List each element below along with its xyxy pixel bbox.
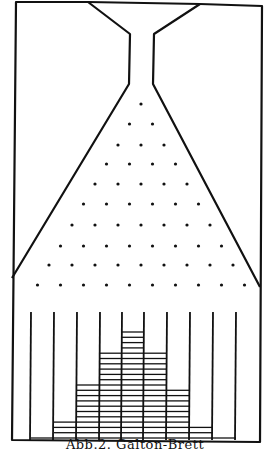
peg bbox=[59, 244, 62, 247]
peg bbox=[139, 102, 142, 105]
peg bbox=[231, 263, 234, 266]
peg bbox=[151, 283, 154, 286]
peg bbox=[139, 143, 142, 146]
bin-divider bbox=[143, 312, 144, 440]
peg bbox=[105, 283, 108, 286]
peg-array bbox=[36, 102, 246, 286]
peg bbox=[105, 202, 108, 205]
peg bbox=[243, 283, 246, 286]
peg bbox=[197, 202, 200, 205]
peg bbox=[151, 162, 154, 165]
figure-caption: Abb.2. Galton-Brett bbox=[0, 437, 270, 452]
peg bbox=[139, 263, 142, 266]
bin-divider bbox=[30, 312, 31, 440]
peg bbox=[162, 263, 165, 266]
bin-divider bbox=[166, 312, 167, 440]
funnel-left-wall bbox=[12, 2, 130, 278]
bin-divider bbox=[235, 312, 236, 440]
peg bbox=[116, 223, 119, 226]
funnel-top-edge bbox=[88, 2, 200, 4]
peg bbox=[128, 283, 131, 286]
funnel-right-wall bbox=[153, 4, 260, 287]
peg bbox=[151, 202, 154, 205]
peg bbox=[220, 244, 223, 247]
ball-stacks bbox=[31, 332, 236, 438]
peg bbox=[93, 182, 96, 185]
peg bbox=[185, 223, 188, 226]
peg bbox=[82, 283, 85, 286]
peg bbox=[93, 263, 96, 266]
peg bbox=[174, 162, 177, 165]
peg bbox=[162, 223, 165, 226]
peg bbox=[128, 244, 131, 247]
peg bbox=[162, 143, 165, 146]
bin-dividers bbox=[30, 312, 236, 440]
peg bbox=[59, 283, 62, 286]
peg bbox=[197, 244, 200, 247]
peg bbox=[128, 202, 131, 205]
peg bbox=[139, 223, 142, 226]
peg bbox=[128, 122, 131, 125]
galton-board-diagram bbox=[0, 0, 270, 452]
bin-divider bbox=[53, 312, 54, 440]
bin-divider bbox=[76, 312, 77, 440]
peg bbox=[82, 202, 85, 205]
peg bbox=[116, 182, 119, 185]
peg bbox=[70, 223, 73, 226]
peg bbox=[151, 244, 154, 247]
peg bbox=[220, 283, 223, 286]
peg bbox=[151, 122, 154, 125]
peg bbox=[105, 162, 108, 165]
peg bbox=[128, 162, 131, 165]
peg bbox=[197, 283, 200, 286]
bin-divider bbox=[121, 312, 122, 440]
peg bbox=[162, 182, 165, 185]
peg bbox=[93, 223, 96, 226]
peg bbox=[174, 283, 177, 286]
peg bbox=[185, 182, 188, 185]
peg bbox=[185, 263, 188, 266]
peg bbox=[82, 244, 85, 247]
peg bbox=[116, 263, 119, 266]
peg bbox=[116, 143, 119, 146]
bin-divider bbox=[99, 312, 100, 440]
peg bbox=[208, 263, 211, 266]
peg bbox=[208, 223, 211, 226]
bin-divider bbox=[212, 312, 213, 440]
peg bbox=[174, 202, 177, 205]
peg bbox=[105, 244, 108, 247]
peg bbox=[47, 263, 50, 266]
peg bbox=[139, 182, 142, 185]
bin-divider bbox=[189, 312, 190, 440]
peg bbox=[36, 283, 39, 286]
peg bbox=[70, 263, 73, 266]
funnel-outline bbox=[12, 2, 260, 287]
peg bbox=[174, 244, 177, 247]
